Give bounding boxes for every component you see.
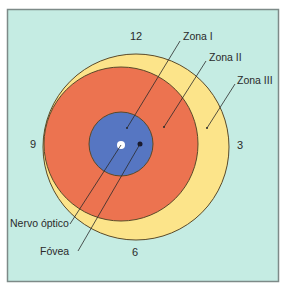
clock-label-6: 6 [132,246,138,258]
zone-iii-label: Zona III [237,74,273,86]
zone-iii-marker [206,127,208,129]
diagram-canvas: 12 3 6 9 Zona I Zona II Zona III Nervo ó… [0,0,286,289]
clock-label-12: 12 [130,30,142,42]
zone-ii-marker [163,126,165,128]
zone-ii-label: Zona II [209,51,242,63]
clock-label-9: 9 [30,138,36,150]
optic-nerve-label: Nervo óptico [10,217,69,229]
zone-i-label: Zona I [183,30,213,42]
fovea-label: Fóvea [40,245,69,257]
clock-label-3: 3 [237,139,243,151]
retina-zones-diagram: 12 3 6 9 Zona I Zona II Zona III Nervo ó… [0,0,286,289]
zone-i-marker [126,127,128,129]
